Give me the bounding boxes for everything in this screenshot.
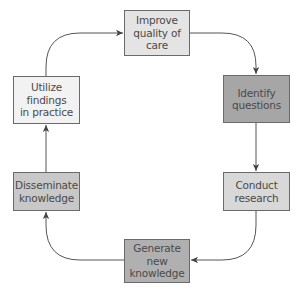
node-conduct-research: Conduct research <box>223 172 290 211</box>
node-label: Generate new knowledge <box>129 242 184 280</box>
arrow-utilize-to-improve <box>46 33 123 76</box>
node-improve-quality-of-care: Improve quality of care <box>124 10 190 56</box>
node-label: Improve quality of care <box>133 14 180 52</box>
node-label: Conduct research <box>235 179 279 204</box>
node-utilize-findings-in-practice: Utilize findings in practice <box>13 76 80 124</box>
node-label: Identify questions <box>232 87 281 112</box>
node-disseminate-knowledge: Disseminate knowledge <box>13 172 80 211</box>
node-label: Utilize findings in practice <box>20 81 73 119</box>
node-identify-questions: Identify questions <box>223 75 290 123</box>
arrow-conduct-to-generate <box>191 211 256 260</box>
arrow-generate-to-disseminate <box>46 212 124 260</box>
node-label: Disseminate knowledge <box>15 179 78 204</box>
node-generate-new-knowledge: Generate new knowledge <box>124 239 190 283</box>
arrow-improve-to-identify <box>190 33 256 74</box>
